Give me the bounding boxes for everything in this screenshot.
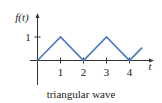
triangular-wave-line xyxy=(38,37,143,61)
chart-caption: triangular wave xyxy=(0,88,162,100)
x-tick-label-4: 4 xyxy=(127,66,133,78)
x-axis-label: t xyxy=(148,60,152,72)
y-tick-label-1: 1 xyxy=(25,31,31,43)
x-tick-label-1: 1 xyxy=(58,66,64,78)
y-axis-arrow-icon xyxy=(36,13,40,18)
y-axis-label: f(t) xyxy=(15,11,29,24)
x-tick-label-3: 3 xyxy=(104,66,110,78)
x-tick-label-2: 2 xyxy=(81,66,87,78)
